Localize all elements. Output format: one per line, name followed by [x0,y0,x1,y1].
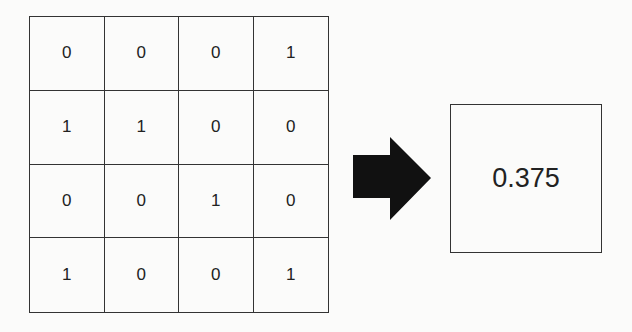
matrix-cell: 0 [105,165,180,239]
right-arrow-icon [353,137,431,220]
matrix-cell: 1 [179,165,254,239]
result-value: 0.375 [492,163,560,194]
binary-matrix: 0 0 0 1 1 1 0 0 0 0 1 0 1 0 0 1 [29,16,329,313]
matrix-cell: 0 [179,238,254,312]
matrix-cell: 1 [254,238,329,312]
matrix-cell: 0 [254,165,329,239]
result-box: 0.375 [450,104,602,253]
matrix-cell: 0 [179,91,254,165]
matrix-cell: 0 [179,17,254,91]
matrix-cell: 0 [105,238,180,312]
matrix-cell: 0 [30,165,105,239]
matrix-cell: 1 [30,238,105,312]
matrix-cell: 0 [30,17,105,91]
matrix-cell: 1 [30,91,105,165]
matrix-cell: 0 [105,17,180,91]
matrix-cell: 1 [254,17,329,91]
matrix-cell: 1 [105,91,180,165]
matrix-cell: 0 [254,91,329,165]
